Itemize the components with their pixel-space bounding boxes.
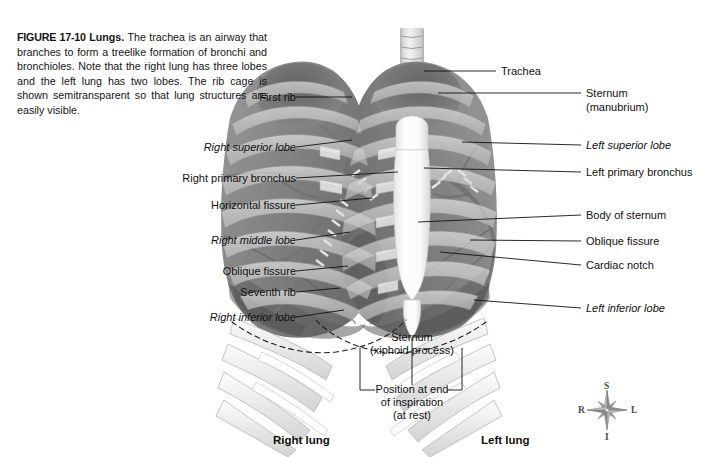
figure-title: Lungs. xyxy=(89,31,124,43)
label-right-inferior-lobe: Right inferior lobe xyxy=(96,311,296,324)
label-right-primary-bronchus: Right primary bronchus xyxy=(66,172,296,185)
figure-canvas: FIGURE 17-10 Lungs. The trachea is an ai… xyxy=(0,0,718,457)
label-left-inferior-lobe: Left inferior lobe xyxy=(586,302,665,315)
compass-label-inferior: I xyxy=(605,432,609,442)
label-cardiac-notch: Cardiac notch xyxy=(586,259,654,272)
figure-caption: FIGURE 17-10 Lungs. The trachea is an ai… xyxy=(17,30,267,118)
label-body-of-sternum: Body of sternum xyxy=(586,209,666,222)
figure-number: FIGURE 17-10 xyxy=(17,31,86,43)
label-oblique-fissure-left: Oblique fissure xyxy=(586,235,659,248)
label-sternum-manubrium: Sternum (manubrium) xyxy=(586,87,648,114)
label-right-lung: Right lung xyxy=(273,434,330,447)
orientation-compass-rose xyxy=(587,390,627,430)
compass-label-left: L xyxy=(631,405,637,415)
compass-label-right: R xyxy=(578,405,585,415)
label-inspiration-line3: (at rest) xyxy=(393,409,431,421)
label-inspiration-line1: Position at end xyxy=(376,383,449,395)
label-sternum-manubrium-line2: (manubrium) xyxy=(586,101,648,113)
label-sternum-xiphoid-line2: (xiphoid process) xyxy=(370,344,454,356)
label-left-lung: Left lung xyxy=(481,434,530,447)
label-right-middle-lobe: Right middle lobe xyxy=(96,234,296,247)
label-position-end-inspiration: Position at end of inspiration (at rest) xyxy=(352,383,472,422)
label-sternum-xiphoid: Sternum (xiphoid process) xyxy=(352,331,472,357)
label-trachea: Trachea xyxy=(501,65,541,78)
label-sternum-manubrium-line1: Sternum xyxy=(586,87,628,99)
label-sternum-xiphoid-line1: Sternum xyxy=(391,331,433,343)
compass-label-superior: S xyxy=(604,381,609,391)
label-left-primary-bronchus: Left primary bronchus xyxy=(586,166,692,179)
label-inspiration-line2: of inspiration xyxy=(381,396,443,408)
label-oblique-fissure-right: Oblique fissure xyxy=(106,265,296,278)
label-first-rib: First rib xyxy=(96,91,296,104)
label-right-superior-lobe: Right superior lobe xyxy=(76,141,296,154)
label-left-superior-lobe: Left superior lobe xyxy=(586,139,671,152)
label-horizontal-fissure: Horizontal fissure xyxy=(86,199,296,212)
label-seventh-rib: Seventh rib xyxy=(126,286,296,299)
